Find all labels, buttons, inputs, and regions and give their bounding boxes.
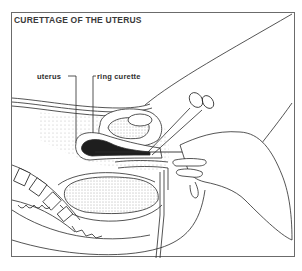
hand xyxy=(173,132,292,240)
bowel xyxy=(58,173,162,222)
curettage-illustration xyxy=(0,0,302,271)
